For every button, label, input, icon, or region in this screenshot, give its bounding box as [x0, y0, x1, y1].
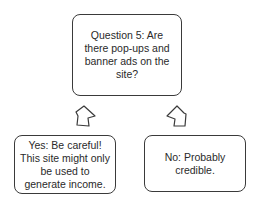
question-box: Question 5: Are there pop-ups and banner… [72, 14, 182, 96]
arrow-down-left-icon [71, 104, 99, 128]
arrow-down-right-icon [164, 104, 192, 128]
yes-text: Yes: Be careful! This site might only be… [19, 139, 111, 191]
no-text: No: Probably credible. [163, 151, 227, 177]
yes-box: Yes: Be careful! This site might only be… [14, 135, 116, 194]
question-text: Question 5: Are there pop-ups and banner… [81, 29, 173, 81]
no-box: No: Probably credible. [144, 135, 246, 192]
